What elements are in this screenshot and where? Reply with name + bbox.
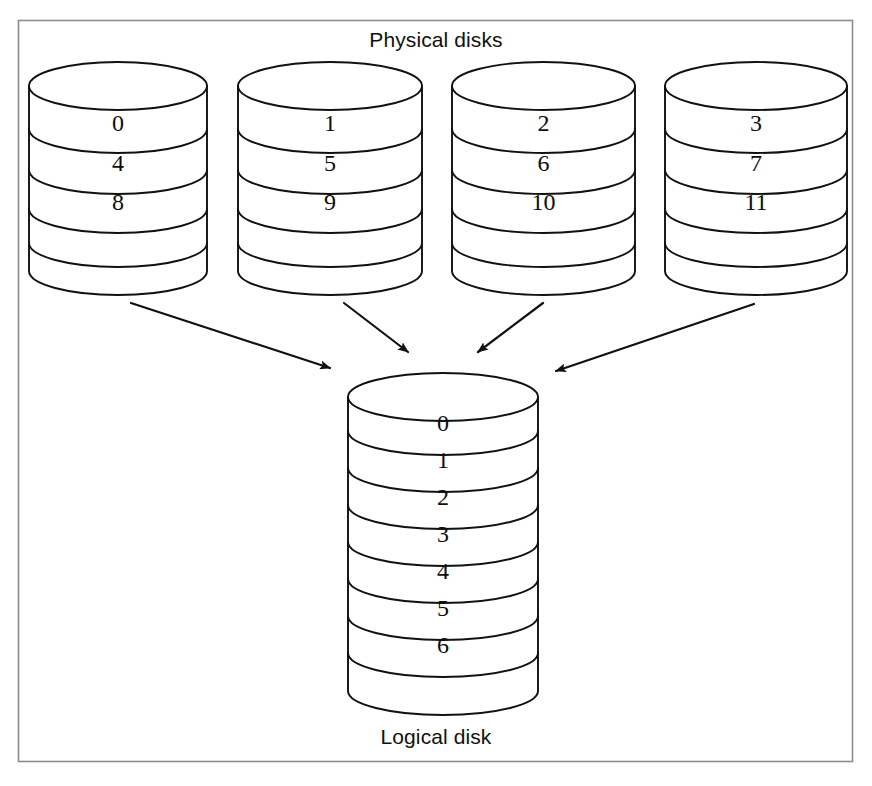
physical-disk-2-block-9: 9: [238, 189, 422, 216]
physical-disk-3-block-6: 6: [452, 150, 635, 177]
logical-disk-block-2: 2: [348, 484, 538, 511]
physical-disk-4-block-11: 11: [665, 189, 847, 216]
physical-disk-1-block-4: 4: [29, 150, 207, 177]
physical-disk-1-block-0: 0: [29, 110, 207, 137]
physical-disk-4-block-7: 7: [665, 150, 847, 177]
physical-disk-2-block-5: 5: [238, 150, 422, 177]
figure-title: Physical disks: [0, 28, 872, 52]
physical-disk-3-block-2: 2: [452, 110, 635, 137]
logical-disk-block-5: 5: [348, 595, 538, 622]
raid-striping-diagram: Physical disks 0 4 8 1 5 9 2 6 10 3 7 11…: [0, 0, 872, 786]
logical-disk-block-0: 0: [348, 410, 538, 437]
logical-disk-caption: Logical disk: [0, 725, 872, 749]
physical-disk-3-block-10: 10: [452, 189, 635, 216]
physical-disk-4-block-3: 3: [665, 110, 847, 137]
logical-disk-block-1: 1: [348, 447, 538, 474]
logical-disk-block-6: 6: [348, 632, 538, 659]
physical-disk-1-block-8: 8: [29, 189, 207, 216]
physical-disk-2-block-1: 1: [238, 110, 422, 137]
logical-disk-block-4: 4: [348, 558, 538, 585]
logical-disk-block-3: 3: [348, 521, 538, 548]
